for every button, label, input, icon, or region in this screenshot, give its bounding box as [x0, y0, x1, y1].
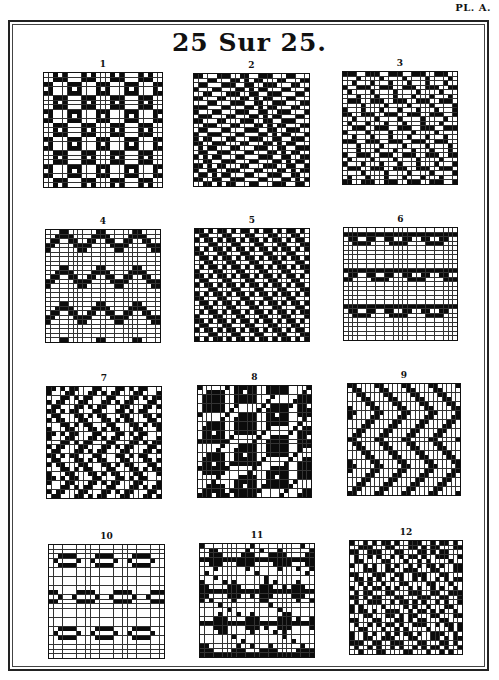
grid-cell	[95, 554, 99, 558]
grid-cell	[301, 649, 305, 653]
grid-cell	[250, 319, 254, 323]
grid-cell	[109, 645, 113, 649]
grid-cell	[344, 305, 348, 309]
grid-cell	[445, 568, 449, 572]
grid-cell	[87, 151, 91, 155]
grid-cell	[376, 228, 380, 232]
weave-grid	[197, 385, 312, 498]
grid-cell	[70, 458, 74, 462]
grid-cell	[222, 106, 226, 110]
grid-cell	[231, 133, 235, 137]
grid-cell	[44, 101, 48, 105]
grid-cell	[96, 329, 100, 333]
grid-cell	[139, 165, 143, 169]
grid-cell	[134, 73, 138, 77]
grid-cell	[69, 284, 73, 288]
grid-cell	[431, 618, 435, 622]
grid-cell	[255, 243, 259, 247]
grid-cell	[227, 279, 231, 283]
grid-cell	[262, 386, 266, 390]
grid-cell	[389, 323, 393, 327]
grid-cell	[380, 446, 384, 450]
grid-cell	[268, 173, 272, 177]
grid-cell	[353, 429, 357, 433]
grid-cell	[376, 255, 380, 259]
grid-cell	[310, 644, 314, 648]
grid-cell	[249, 169, 253, 173]
grid-cell	[236, 301, 240, 305]
grid-cell	[218, 594, 222, 598]
grid-cell	[458, 555, 462, 559]
grid-cell	[223, 274, 227, 278]
grid-cell	[384, 429, 388, 433]
grid-cell	[128, 609, 132, 613]
grid-cell	[413, 636, 417, 640]
grid-cell	[371, 90, 375, 94]
grid-cell	[362, 291, 366, 295]
grid-cell	[139, 146, 143, 150]
grid-cell	[456, 388, 460, 392]
grid-cell	[264, 580, 268, 584]
grid-cell	[92, 325, 96, 329]
grid-cell	[134, 436, 138, 440]
grid-cell	[426, 95, 430, 99]
grid-cell	[245, 238, 249, 242]
grid-cell	[212, 395, 216, 399]
grid-cell	[357, 135, 361, 139]
grid-cell	[96, 302, 100, 306]
grid-cell	[305, 164, 309, 168]
grid-cell	[124, 293, 128, 297]
grid-cell	[269, 644, 273, 648]
grid-cell	[221, 390, 225, 394]
grid-cell	[385, 287, 389, 291]
grid-cell	[443, 482, 447, 486]
grid-cell	[58, 581, 62, 585]
grid-cell	[453, 273, 457, 277]
grid-cell	[153, 174, 157, 178]
grid-cell	[231, 74, 235, 78]
grid-cell	[60, 298, 64, 302]
grid-cell	[425, 451, 429, 455]
grid-cell	[300, 238, 304, 242]
grid-cell	[305, 621, 309, 625]
grid-cell	[119, 271, 123, 275]
grid-cell	[207, 426, 211, 430]
grid-cell	[232, 644, 236, 648]
grid-cell	[296, 142, 300, 146]
grid-cell	[137, 604, 141, 608]
grid-cell	[430, 332, 434, 336]
grid-cell	[268, 182, 272, 186]
grid-cell	[240, 142, 244, 146]
grid-cell	[241, 247, 245, 251]
grid-cell	[413, 632, 417, 636]
grid-cell	[344, 282, 348, 286]
grid-cell	[384, 180, 388, 184]
grid-cell	[209, 580, 213, 584]
grid-cell	[214, 599, 218, 603]
grid-cell	[269, 635, 273, 639]
grid-cell	[257, 444, 261, 448]
grid-cell	[447, 388, 451, 392]
grid-cell	[157, 423, 161, 427]
grid-cell	[458, 636, 462, 640]
grid-cell	[123, 654, 127, 658]
grid-cell	[148, 490, 152, 494]
grid-cell	[248, 462, 252, 466]
grid-cell	[200, 594, 204, 598]
grid-cell	[226, 133, 230, 137]
grid-cell	[133, 230, 137, 234]
grid-cell	[430, 282, 434, 286]
grid-cell	[303, 462, 307, 466]
grid-cell	[194, 101, 198, 105]
grid-cell	[444, 269, 448, 273]
grid-cell	[134, 178, 138, 182]
grid-cell	[248, 404, 252, 408]
grid-cell	[115, 156, 119, 160]
grid-cell	[403, 162, 407, 166]
grid-cell	[245, 328, 249, 332]
grid-cell	[218, 585, 222, 589]
grid-cell	[125, 481, 129, 485]
grid-cell	[264, 283, 268, 287]
grid-cell	[364, 618, 368, 622]
grid-cell	[456, 415, 460, 419]
